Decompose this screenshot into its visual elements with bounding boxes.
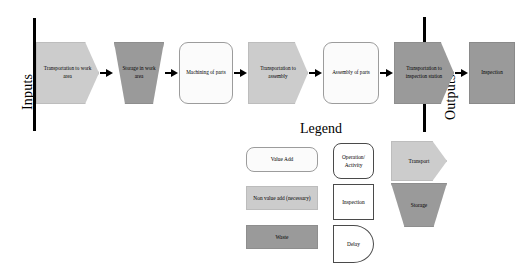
inputs-label: Inputs [20, 74, 36, 110]
flow-node-assembly-of-parts[interactable]: Assembly of parts [323, 42, 379, 104]
flow-node-transportation-to-work-area[interactable]: Transportation to work area [36, 42, 99, 104]
flow-node-machining-of-parts[interactable]: Machining of parts [179, 42, 233, 104]
process-flow-diagram: Transportation to work area Storage in w… [36, 42, 421, 104]
legend-category-non-value-add[interactable]: Non value add (necessary) [246, 186, 318, 210]
legend-shape-delay[interactable]: Delay [333, 225, 374, 263]
flow-node-label: Inspection [474, 69, 510, 77]
flow-arrow-3 [234, 69, 247, 77]
flow-arrow-6 [455, 69, 468, 77]
legend-category-label: Waste [275, 233, 288, 241]
legend-shape-transport[interactable]: Transport [391, 141, 447, 181]
flow-arrow-5 [380, 69, 393, 77]
legend-title: Legend [300, 121, 342, 137]
flow-arrow-1 [100, 69, 113, 77]
legend-shape-operation-activity[interactable]: Operation/ Activity [333, 143, 374, 179]
flow-node-label: Assembly of parts [328, 69, 374, 77]
flow-node-label: Machining of parts [184, 69, 228, 77]
legend-shape-label: Delay [347, 240, 360, 248]
legend-shape-storage[interactable]: Storage [391, 183, 447, 227]
flow-node-transportation-to-assembly[interactable]: Transportation to assembly [248, 42, 308, 104]
legend-shape-label: Operation/ Activity [334, 153, 373, 170]
legend-shape-inspection[interactable]: Inspection [333, 184, 374, 220]
flow-arrow-4 [309, 69, 322, 77]
legend: Value Add Non value add (necessary) Wast… [246, 143, 451, 268]
flow-node-label: Transportation to inspection station [399, 65, 449, 81]
flow-node-inspection[interactable]: Inspection [469, 42, 515, 104]
legend-shape-label: Storage [411, 201, 427, 209]
legend-category-label: Non value add (necessary) [253, 194, 310, 202]
legend-shape-label: Inspection [342, 198, 364, 206]
flow-node-storage-in-work-area[interactable]: Storage in work area [114, 42, 164, 104]
flow-node-label: Storage in work area [119, 65, 159, 81]
flow-arrow-2 [165, 69, 178, 77]
legend-category-value-add[interactable]: Value Add [246, 147, 318, 172]
legend-category-label: Value Add [271, 155, 294, 163]
flow-node-label: Transportation to work area [41, 65, 94, 81]
legend-category-waste[interactable]: Waste [246, 225, 318, 249]
legend-shape-label: Transport [409, 157, 430, 165]
flow-node-label: Transportation to assembly [253, 65, 303, 81]
